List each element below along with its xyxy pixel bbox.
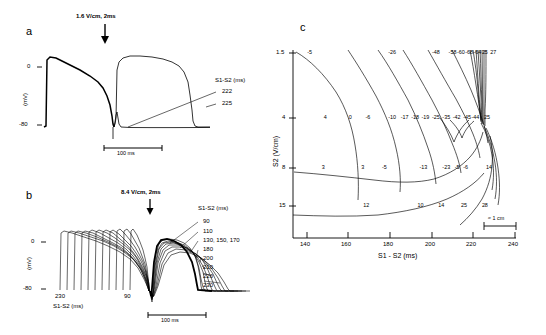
- contour-value-label: -6: [463, 165, 468, 170]
- contour-value-label: -48: [432, 50, 440, 55]
- panel-c-xtick-5: 220: [466, 241, 476, 247]
- panel-c-ytick-3: 8: [282, 164, 285, 170]
- contour-value-label: 3: [322, 165, 325, 170]
- panel-c-ytick-2: 4: [282, 114, 285, 120]
- panel-c-x-axis-label: S1 - S2 (ms): [378, 252, 417, 259]
- contour-value-label: -25: [432, 115, 440, 120]
- contour-value-label: -10: [388, 115, 396, 120]
- contour-value-label: -18: [411, 115, 419, 120]
- contour-value-label: 14: [486, 165, 492, 170]
- contour-value-label: 12: [363, 203, 369, 208]
- contour-value-label: -35: [442, 115, 450, 120]
- contour-value-label: -23: [442, 165, 450, 170]
- contour-value-label: -19: [422, 115, 430, 120]
- panel-c-scale-bar-label: ≈ 1 cm: [488, 216, 504, 221]
- panel-c-contours: [293, 50, 500, 225]
- panel-c-y-axis-label: S2 (V/cm): [272, 136, 279, 167]
- contour-value-label: -5: [455, 165, 460, 170]
- contour-value-label: 3: [361, 165, 364, 170]
- panel-c-axes: [289, 50, 516, 238]
- contour-value-label: -68: [465, 50, 473, 55]
- contour-value-label: 25: [461, 203, 467, 208]
- panel-c-xtick-6: 240: [508, 241, 518, 247]
- figure-container: a 1.6 V/cm, 2ms: [0, 0, 546, 335]
- contour-value-label: -42: [453, 115, 461, 120]
- contour-value-label: 25: [484, 115, 490, 120]
- contour-value-label: -5: [307, 50, 312, 55]
- contour-value-label: -45: [463, 115, 471, 120]
- contour-value-label: -60: [457, 50, 465, 55]
- panel-c-scale-bar: [484, 222, 516, 230]
- panel-c-xtick-2: 160: [341, 241, 351, 247]
- panel-c-xtick-1: 140: [300, 241, 310, 247]
- contour-value-label: 27: [490, 50, 496, 55]
- contour-value-label: -6: [365, 115, 370, 120]
- contour-value-label: 4: [324, 115, 327, 120]
- contour-value-label: 25: [482, 50, 488, 55]
- contour-value-label: 28: [482, 203, 488, 208]
- contour-value-label: 10: [417, 203, 423, 208]
- contour-value-label: -64: [474, 50, 482, 55]
- contour-value-label: -17: [401, 115, 409, 120]
- contour-value-label: -5: [382, 165, 387, 170]
- contour-value-label: -44: [471, 115, 479, 120]
- panel-c-xtick-4: 200: [425, 241, 435, 247]
- panel-c-ytick-1: 1.5: [276, 49, 284, 55]
- contour-value-label: -26: [388, 50, 396, 55]
- contour-value-label: -58: [449, 50, 457, 55]
- contour-value-label: 0: [349, 115, 352, 120]
- contour-value-label: 14: [438, 203, 444, 208]
- contour-value-label: -13: [419, 165, 427, 170]
- panel-c-ytick-4: 15: [279, 202, 286, 208]
- panel-c-xtick-3: 180: [383, 241, 393, 247]
